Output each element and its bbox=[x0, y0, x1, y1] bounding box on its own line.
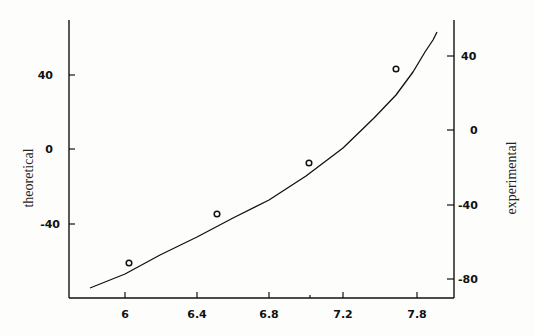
x-ticks bbox=[125, 292, 417, 298]
theoretical-curve bbox=[90, 32, 437, 288]
right-y-tick-labels: 40 0 -40 -80 bbox=[458, 50, 478, 286]
x-tick-label: 6.4 bbox=[187, 308, 207, 321]
x-tick-label: 7.2 bbox=[333, 308, 353, 321]
right-tick-label: -40 bbox=[458, 199, 478, 212]
left-tick-label: -40 bbox=[40, 218, 60, 231]
x-tick-label: 6 bbox=[121, 308, 129, 321]
x-tick-labels: 6 6.4 6.8 7.2 7.8 bbox=[121, 308, 427, 321]
left-tick-label: 40 bbox=[38, 69, 54, 82]
left-y-tick-labels: 40 0 -40 bbox=[38, 69, 61, 231]
left-axis-title: theoretical bbox=[21, 148, 36, 207]
x-tick-label: 6.8 bbox=[259, 308, 279, 321]
experimental-points bbox=[126, 66, 399, 266]
right-tick-label: -80 bbox=[458, 273, 478, 286]
x-tick-label: 7.8 bbox=[407, 308, 427, 321]
right-tick-label: 0 bbox=[470, 124, 478, 137]
left-y-ticks bbox=[69, 75, 75, 224]
data-point bbox=[214, 211, 220, 217]
data-point bbox=[126, 260, 132, 266]
data-point bbox=[393, 66, 399, 72]
data-point bbox=[306, 160, 312, 166]
right-y-ticks bbox=[447, 56, 454, 279]
left-tick-label: 0 bbox=[45, 143, 53, 156]
right-axis-title: experimental bbox=[504, 141, 519, 214]
right-tick-label: 40 bbox=[461, 50, 477, 63]
chart-figure: 6 6.4 6.8 7.2 7.8 40 0 -40 theoretical 4… bbox=[0, 0, 535, 336]
